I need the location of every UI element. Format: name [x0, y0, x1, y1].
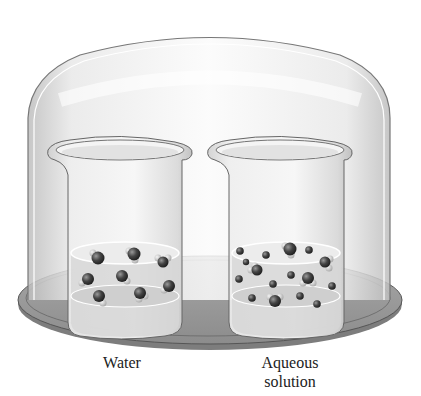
- bell-jar-diagram: [0, 0, 421, 396]
- solute-particle: [262, 251, 270, 259]
- beaker-aqueous-solution: [208, 136, 353, 339]
- solute-particle: [313, 300, 321, 308]
- solute-particle: [328, 282, 336, 290]
- solute-particle: [305, 246, 313, 254]
- water-label: Water: [92, 353, 152, 372]
- solute-particle: [235, 275, 243, 283]
- solute-particle: [236, 247, 244, 255]
- solute-particle: [287, 271, 295, 279]
- solute-particle: [243, 259, 249, 265]
- figure: Water Aqueous solution: [0, 0, 421, 396]
- solute-particle: [296, 292, 304, 300]
- aqueous-label-line2: solution: [250, 372, 330, 391]
- beaker-water: [48, 136, 193, 339]
- solute-particle: [248, 294, 256, 302]
- aqueous-label-line1: Aqueous: [250, 353, 330, 372]
- solute-particle: [269, 280, 277, 288]
- aqueous-solution-label: Aqueous solution: [250, 353, 330, 391]
